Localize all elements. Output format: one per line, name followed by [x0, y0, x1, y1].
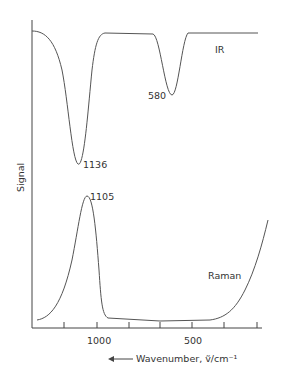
tick-label-1000: 1000 [87, 335, 111, 346]
x-axis-ticks [64, 322, 257, 328]
left-arrow-icon [108, 356, 114, 362]
spectrum-chart: 1136 580 1105 IR Raman 1000 500 Wavenumb… [0, 0, 285, 379]
peak-label-580: 580 [148, 90, 166, 101]
peak-label-1105: 1105 [90, 191, 114, 202]
peak-label-1136: 1136 [83, 159, 107, 170]
y-axis-title: Signal [15, 163, 26, 192]
series-label-ir: IR [215, 44, 225, 55]
x-axis-title: Wavenumber, ṽ/cm⁻¹ [136, 353, 238, 364]
x-axis-label: Wavenumber, ṽ/cm⁻¹ [108, 353, 238, 364]
series-label-raman: Raman [208, 270, 241, 281]
raman-curve [37, 196, 268, 321]
tick-label-500: 500 [184, 335, 202, 346]
